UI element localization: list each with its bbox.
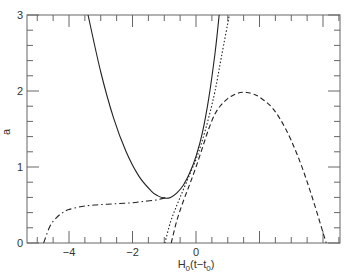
x-axis-title: H0(t−t0) [178, 258, 215, 273]
x-tick-label: −4 [63, 246, 76, 258]
y-tick-label: 0 [17, 237, 23, 249]
y-tick-label: 1 [17, 161, 23, 173]
curve-dashed [171, 92, 326, 243]
y-tick-label: 2 [17, 85, 23, 97]
plot-frame [27, 15, 340, 243]
curve-solid [88, 15, 219, 198]
y-tick-labels: 0123 [17, 9, 23, 249]
x-tick-label: 0 [193, 246, 199, 258]
y-tick-label: 3 [17, 9, 23, 21]
curves [44, 15, 327, 243]
chart: −4−20 0123 a H0(t−t0) [0, 0, 351, 279]
y-axis-title: a [0, 128, 12, 135]
axis-ticks [27, 15, 340, 243]
x-tick-labels: −4−20 [63, 246, 199, 258]
curve-dash-dot [44, 197, 168, 243]
curve-dotted [165, 15, 229, 243]
x-tick-label: −2 [126, 246, 139, 258]
